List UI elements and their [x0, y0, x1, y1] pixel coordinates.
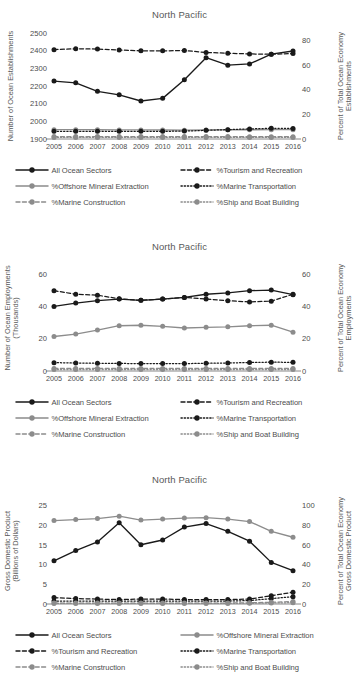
y-axis-title: Gross Domestic Product(Billions of Dolla… [3, 511, 20, 591]
x-tick-label: 2013 [220, 374, 236, 383]
x-tick-label: 2014 [242, 142, 258, 151]
legend-item[interactable]: All Ocean Sectors [15, 397, 180, 407]
series-marker [269, 601, 274, 606]
legend-item[interactable]: %Marine Transportation [180, 413, 345, 423]
series-marker [291, 292, 296, 297]
legend-item[interactable]: %Tourism and Recreation [180, 397, 345, 407]
x-tick-label: 2014 [242, 607, 258, 616]
series-marker [291, 360, 296, 365]
y-axis-title: Number of Ocean Employments(Thousands) [3, 265, 20, 370]
chart-panel-establishments: North Pacific190020002100220023002400250… [0, 0, 359, 232]
plot-area: 0510152025020406080100200520062007200820… [0, 486, 359, 624]
series-marker [73, 80, 78, 85]
legend-item[interactable]: %Marine Transportation [180, 181, 345, 191]
legend-label: %Ship and Boat Building [217, 430, 299, 439]
series-marker [291, 600, 296, 605]
series-marker [138, 129, 143, 134]
legend-swatch-icon [180, 662, 214, 672]
series-marker [117, 92, 122, 97]
x-tick-label: 2005 [46, 374, 62, 383]
legend-item[interactable]: %Marine Construction [15, 197, 180, 207]
legend-swatch-icon [15, 662, 49, 672]
chart-panel-gdp: North Pacific051015202502040608010020052… [0, 465, 359, 700]
legend-swatch-icon [15, 429, 49, 439]
y-tick-label: 60 [39, 270, 47, 279]
series-marker [247, 360, 252, 365]
series-marker [117, 514, 122, 519]
legend-item[interactable]: %Offshore Mineral Extraction [15, 181, 180, 191]
legend-item[interactable]: %Marine Transportation [180, 646, 345, 656]
legend-item[interactable]: %Marine Construction [15, 429, 180, 439]
series-marker [95, 361, 100, 366]
legend-item[interactable]: All Ocean Sectors [15, 630, 180, 640]
x-tick-label: 2006 [68, 607, 84, 616]
series-marker [95, 539, 100, 544]
legend-label: All Ocean Sectors [52, 631, 112, 640]
series-marker [117, 367, 122, 372]
legend-swatch-icon [180, 165, 214, 175]
series-marker [95, 47, 100, 52]
series-marker [117, 296, 122, 301]
series-marker [160, 601, 165, 606]
legend-item[interactable]: All Ocean Sectors [15, 165, 180, 175]
legend-item[interactable]: %Offshore Mineral Extraction [15, 413, 180, 423]
series-marker [160, 367, 165, 372]
series-marker [73, 301, 78, 306]
series-marker [247, 288, 252, 293]
series-marker [225, 127, 230, 132]
series-marker [225, 324, 230, 329]
legend-label: All Ocean Sectors [52, 398, 112, 407]
x-tick-label: 2016 [285, 607, 301, 616]
series-marker [117, 323, 122, 328]
y-tick-label: 40 [39, 302, 47, 311]
y2-tick-label: 0 [302, 135, 306, 144]
series-marker [247, 601, 252, 606]
legend-item[interactable]: %Tourism and Recreation [180, 165, 345, 175]
legend-item[interactable]: %Ship and Boat Building [180, 662, 345, 672]
x-tick-label: 2009 [133, 374, 149, 383]
series-marker [73, 517, 78, 522]
legend-item[interactable]: %Ship and Boat Building [180, 197, 345, 207]
y-tick-label: 15 [39, 541, 47, 550]
x-tick-label: 2010 [155, 374, 171, 383]
legend-item[interactable]: %Ship and Boat Building [180, 429, 345, 439]
series-marker [291, 51, 296, 56]
series-marker [247, 539, 252, 544]
series-marker [52, 129, 57, 134]
x-tick-label: 2007 [89, 142, 105, 151]
series-marker [182, 601, 187, 606]
x-tick-label: 2011 [177, 374, 192, 383]
y2-tick-label: 60 [302, 61, 310, 70]
legend-item[interactable]: %Offshore Mineral Extraction [180, 630, 345, 640]
y-tick-label: 1900 [30, 135, 47, 144]
y2-tick-label: 0 [302, 367, 306, 376]
series-marker [95, 367, 100, 372]
y2-tick-label: 40 [302, 560, 310, 569]
y-axis-title: Number of Ocean Establishments [6, 30, 15, 141]
series-marker [138, 367, 143, 372]
series-marker [269, 323, 274, 328]
chart-legend: All Ocean Sectors%Tourism and Recreation… [15, 391, 345, 439]
x-tick-label: 2013 [220, 607, 236, 616]
legend-item[interactable]: %Tourism and Recreation [15, 646, 180, 656]
y-tick-label: 2400 [30, 46, 47, 55]
series-marker [269, 299, 274, 304]
y2-tick-label: 40 [302, 85, 310, 94]
series-marker [52, 601, 57, 606]
series-marker [182, 295, 187, 300]
series-marker [291, 590, 296, 595]
series-marker [182, 77, 187, 82]
series-marker [138, 298, 143, 303]
legend-swatch-icon [180, 181, 214, 191]
x-tick-label: 2006 [68, 374, 84, 383]
series-marker [225, 135, 230, 140]
legend-label: %Marine Construction [52, 198, 126, 207]
chart-title: North Pacific [0, 465, 359, 486]
series-marker [247, 135, 252, 140]
legend-item[interactable]: %Marine Construction [15, 662, 180, 672]
series-line [54, 592, 293, 599]
series-marker [138, 361, 143, 366]
series-marker [52, 360, 57, 365]
series-marker [95, 601, 100, 606]
x-tick-label: 2011 [177, 607, 192, 616]
